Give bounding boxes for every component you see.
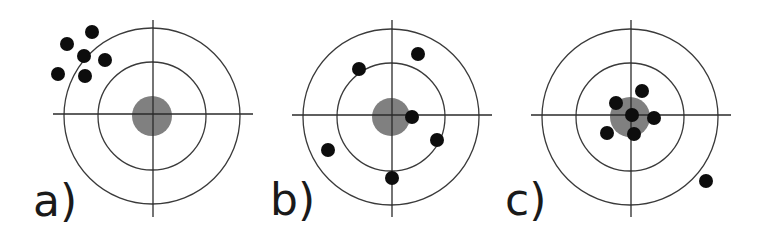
panel-label: c) (505, 174, 546, 225)
shot-hole (77, 49, 91, 63)
shot-hole (600, 126, 614, 140)
shot-hole (321, 143, 335, 157)
target-panel-c: c) (505, 20, 731, 225)
shot-hole (627, 127, 641, 141)
shot-hole (699, 174, 713, 188)
shot-hole (625, 108, 639, 122)
shot-hole (405, 110, 419, 124)
target-panel-b: b) (270, 20, 492, 225)
shot-hole (411, 47, 425, 61)
panel-label: a) (33, 175, 77, 226)
shot-hole (60, 37, 74, 51)
bullseye (132, 96, 172, 136)
shot-hole (635, 84, 649, 98)
shot-hole (647, 111, 661, 125)
shot-hole (78, 69, 92, 83)
shot-hole (430, 133, 444, 147)
target-panel-a: a) (33, 20, 253, 226)
shot-hole (352, 62, 366, 76)
panel-label: b) (270, 174, 315, 225)
shot-hole (85, 25, 99, 39)
shot-hole (385, 171, 399, 185)
bullseye (372, 98, 410, 136)
shot-hole (98, 53, 112, 67)
shot-hole (609, 96, 623, 110)
shot-hole (51, 67, 65, 81)
targets-figure: a) b) c) (0, 0, 764, 237)
